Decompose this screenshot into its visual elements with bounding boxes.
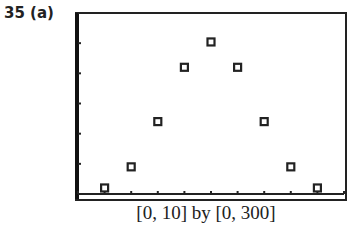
data-point xyxy=(314,184,321,191)
window-caption: [0, 10] by [0, 300] xyxy=(0,202,352,224)
data-point xyxy=(208,38,215,45)
data-point xyxy=(261,118,268,125)
data-point xyxy=(101,184,108,191)
data-point xyxy=(234,64,241,71)
data-point xyxy=(154,118,161,125)
data-point xyxy=(181,64,188,71)
data-point xyxy=(128,163,135,170)
data-point xyxy=(287,163,294,170)
